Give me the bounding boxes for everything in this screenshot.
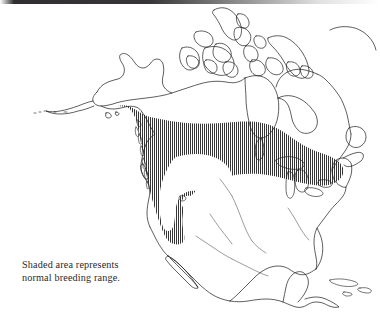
map-caption: Shaded area represents normal breeding r… — [22, 258, 202, 285]
range-map-figure: Shaded area represents normal breeding r… — [0, 0, 380, 315]
